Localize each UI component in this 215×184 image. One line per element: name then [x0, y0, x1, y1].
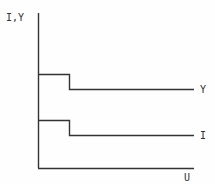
series-i-line — [39, 121, 195, 136]
series-i-label: I — [200, 130, 206, 141]
chart-canvas: I,Y U Y I — [0, 0, 215, 184]
series-y-line — [39, 75, 195, 90]
x-axis-label: U — [184, 172, 190, 183]
step-chart: I,Y U Y I — [0, 0, 215, 184]
series-y-label: Y — [200, 84, 206, 95]
y-axis-label: I,Y — [6, 12, 24, 23]
